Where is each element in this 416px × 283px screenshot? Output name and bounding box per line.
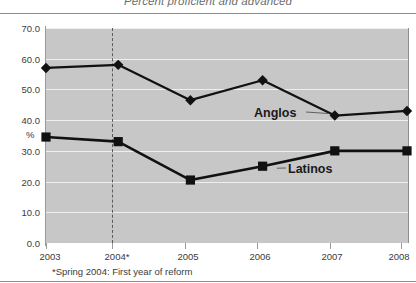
marker-anglos-2004 — [113, 60, 123, 70]
chart-footnote: *Spring 2004: First year of reform — [52, 266, 192, 277]
x-tickmark-2007 — [330, 243, 331, 249]
y-tick-70: 70.0 — [0, 23, 40, 34]
x-tickmark-2004 — [112, 243, 113, 249]
series-label-anglos: Anglos — [254, 106, 296, 120]
chart-figure: Percent proficient and advanced 70.0 60.… — [0, 0, 416, 283]
x-tick-2006: 2006 — [249, 251, 270, 262]
x-tickmark-2008 — [401, 243, 402, 249]
x-tick-2007: 2007 — [321, 251, 342, 262]
y-tick-50: 50.0 — [0, 84, 40, 95]
marker-latinos-2004 — [114, 137, 123, 146]
y-tick-10: 10.0 — [0, 207, 40, 218]
marker-anglos-2008 — [402, 106, 412, 116]
x-tickmark-2005 — [185, 243, 186, 249]
title-divider — [0, 13, 416, 14]
marker-anglos-2007 — [330, 110, 340, 120]
line-latinos — [46, 137, 407, 180]
x-tick-2005: 2005 — [177, 251, 198, 262]
marker-latinos-2006 — [258, 162, 267, 171]
y-tick-60: 60.0 — [0, 54, 40, 65]
y-tick-20: 20.0 — [0, 177, 40, 188]
bottom-divider — [0, 281, 416, 282]
y-tick-40: 40.0 — [0, 115, 40, 126]
marker-anglos-2003 — [41, 63, 51, 73]
line-anglos — [46, 65, 407, 116]
x-tick-2004: 2004* — [105, 251, 130, 262]
x-tickmark-2006 — [257, 243, 258, 249]
marker-latinos-2008 — [402, 146, 411, 155]
marker-anglos-2006 — [257, 75, 267, 85]
x-tick-2008: 2008 — [388, 251, 409, 262]
x-tickmark-2003 — [46, 243, 47, 249]
chart-title: Percent proficient and advanced — [0, 0, 416, 7]
marker-latinos-2005 — [186, 175, 195, 184]
marker-latinos-2007 — [330, 146, 339, 155]
x-tick-2003: 2003 — [39, 251, 60, 262]
series-plot — [46, 28, 408, 243]
marker-latinos-2003 — [41, 132, 50, 141]
leader-line-anglos — [306, 112, 329, 114]
y-tick-0: 0.0 — [0, 238, 40, 249]
series-label-latinos: Latinos — [288, 162, 332, 176]
y-tick-30: 30.0 — [0, 146, 40, 157]
marker-anglos-2005 — [185, 95, 195, 105]
y-axis-label: % — [26, 129, 34, 140]
